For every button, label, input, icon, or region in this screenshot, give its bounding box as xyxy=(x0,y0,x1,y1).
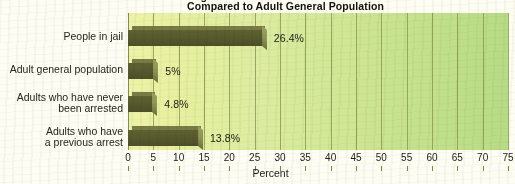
x-tick-label: 30 xyxy=(274,152,285,163)
category-label: Adult general population xyxy=(10,64,123,76)
x-tick-label: 50 xyxy=(376,152,387,163)
category-label: Adults who have never been arrested xyxy=(17,92,123,115)
x-tick-label: 20 xyxy=(224,152,235,163)
x-tick-label: 15 xyxy=(198,152,209,163)
chart-figure: Percentage of Adults with Mental Illness… xyxy=(0,0,515,184)
category-label: Adults who have a previous arrest xyxy=(45,126,123,149)
x-tick-label: 5 xyxy=(151,152,157,163)
x-tick-label: 0 xyxy=(125,152,131,163)
category-label: People in jail xyxy=(63,31,123,43)
x-tick-label: 40 xyxy=(325,152,336,163)
x-tick-label: 55 xyxy=(401,152,412,163)
x-tick-label: 60 xyxy=(426,152,437,163)
x-tick-label: 10 xyxy=(173,152,184,163)
x-axis-tick-labels: 051015202530354045505560657075 xyxy=(0,152,515,166)
x-tick-label: 45 xyxy=(350,152,361,163)
x-tick-label: 75 xyxy=(502,152,513,163)
x-tick-label: 35 xyxy=(300,152,311,163)
x-axis-title: Percent xyxy=(0,167,515,179)
x-tick-label: 65 xyxy=(452,152,463,163)
x-tick-label: 25 xyxy=(249,152,260,163)
x-tick-label: 70 xyxy=(477,152,488,163)
